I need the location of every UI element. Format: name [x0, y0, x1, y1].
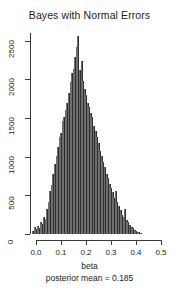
y-tick-label: 1500 [0, 114, 23, 122]
x-tick-mark [36, 240, 37, 245]
y-tick-label-text: 0 [7, 240, 15, 244]
x-tick-label: 0.5 [151, 248, 171, 257]
posterior-mean-caption: posterior mean = 0.185 [0, 273, 179, 283]
x-axis-line [36, 240, 162, 241]
y-tick-label-text: 1000 [7, 156, 15, 174]
x-tick-mark [86, 240, 87, 245]
y-tick-mark [25, 41, 30, 42]
y-axis-line [30, 33, 31, 234]
y-tick-label: 1000 [0, 153, 23, 161]
y-tick-mark [25, 157, 30, 158]
plot-area [36, 33, 161, 234]
x-tick-mark [161, 240, 162, 245]
x-tick-label: 0.4 [126, 248, 146, 257]
x-tick-mark [111, 240, 112, 245]
y-tick-mark [25, 195, 30, 196]
y-tick-mark [25, 234, 30, 235]
y-tick-label-text: 2000 [7, 78, 15, 96]
y-tick-label: 2500 [0, 37, 23, 45]
y-tick-mark [25, 79, 30, 80]
y-tick-label: 2000 [0, 75, 23, 83]
histogram-bars [36, 33, 161, 234]
x-tick-mark [61, 240, 62, 245]
x-tick-label: 0.0 [26, 248, 46, 257]
x-tick-label: 0.1 [51, 248, 71, 257]
x-tick-label: 0.3 [101, 248, 121, 257]
y-tick-label: 500 [0, 191, 23, 199]
histogram-bar [140, 233, 142, 234]
histogram-figure: Bayes with Normal Errors 050010001500200… [0, 0, 179, 299]
y-tick-label-text: 1500 [7, 117, 15, 135]
page-title: Bayes with Normal Errors [0, 9, 179, 21]
x-tick-label: 0.2 [76, 248, 96, 257]
y-tick-label-text: 500 [7, 197, 15, 210]
x-axis-label: beta [0, 261, 179, 271]
y-tick-label-text: 2500 [7, 40, 15, 58]
x-tick-mark [136, 240, 137, 245]
y-tick-mark [25, 118, 30, 119]
y-tick-label: 0 [0, 230, 23, 238]
